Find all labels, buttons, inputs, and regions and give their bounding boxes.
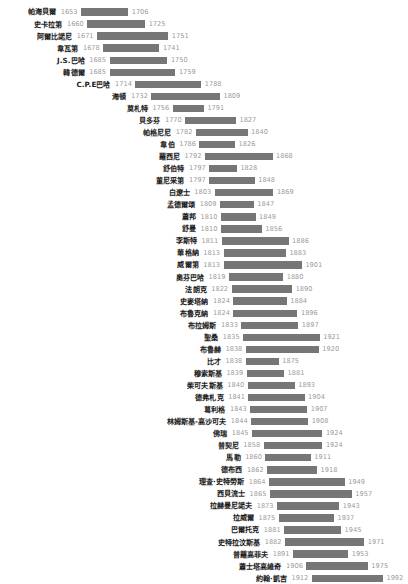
death-year-label: 1840 [251,129,268,136]
birth-year-label: 1862 [247,467,264,474]
lifespan-bar [246,358,279,365]
birth-year-label: 1803 [194,189,211,196]
lifespan-bar-group: 1725 [87,18,165,30]
birth-year-label: 1782 [176,129,193,136]
lifespan-bar [209,165,237,172]
death-year-label: 1943 [343,503,360,510]
death-year-label: 1875 [282,358,299,365]
row-label-group: 孟德爾頌1809 [167,199,220,211]
death-year-label: 1957 [355,491,372,498]
lifespan-bar [252,430,322,437]
lifespan-bar [246,346,319,353]
timeline-row: 布魯克納18241896 [0,307,408,319]
lifespan-bar-group: 1880 [229,271,304,283]
death-year-label: 1921 [323,334,340,341]
timeline-row: 拉威爾18751937 [0,512,408,524]
lifespan-bar-group: 1953 [293,548,369,560]
timeline-row: 比才18381875 [0,355,408,367]
birth-year-label: 1891 [273,551,290,558]
birth-year-label: 1678 [83,45,100,52]
row-label-group: 韓德爾1685 [63,66,109,78]
row-label-group: 西貝流士1865 [217,488,270,500]
lifespan-bar [247,370,284,377]
row-label-group: 羅西尼1792 [159,151,205,163]
death-year-label: 1945 [345,527,362,534]
row-label-group: 理查·史特勞斯1864 [199,476,269,488]
death-year-label: 1901 [305,262,322,269]
timeline-row: 普契尼18581924 [0,440,408,452]
birth-year-label: 1786 [179,141,196,148]
row-label-group: C.P.E巴哈1714 [77,78,136,90]
lifespan-bar-group: 1706 [81,6,148,18]
birth-year-label: 1819 [209,274,226,281]
lifespan-bar [277,502,339,509]
lifespan-bar [233,297,286,304]
composer-name: 穆索斯基 [194,370,222,377]
composer-name: 白遼士 [169,189,190,196]
timeline-row: 奧芬巴哈18191880 [0,271,408,283]
lifespan-bar [229,273,283,280]
timeline-row: 蕭邦18101849 [0,211,408,223]
lifespan-bar [199,141,235,148]
row-label-group: 普羅高菲夫1891 [233,548,293,560]
composer-name: 普契尼 [218,442,239,449]
row-label-group: 蕭士塔高維奇1906 [239,560,306,572]
birth-year-label: 1685 [89,69,106,76]
birth-year-label: 1838 [226,346,243,353]
timeline-row: 柴可夫斯基18401893 [0,379,408,391]
lifespan-bar-group: 1875 [246,355,299,367]
lifespan-bar [269,478,345,485]
lifespan-bar-group: 1868 [205,151,293,163]
lifespan-bar-group: 1937 [279,512,355,524]
lifespan-bar-group: 1849 [221,211,276,223]
row-label-group: 比才1838 [207,355,246,367]
lifespan-bar [243,334,320,341]
row-label-group: 林姆斯基-高沙可夫1844 [167,416,252,428]
birth-year-label: 1864 [249,479,266,486]
lifespan-bar [87,20,145,27]
birth-year-label: 1714 [115,81,132,88]
composer-name: 史特拉汶斯基 [218,539,261,546]
birth-year-label: 1835 [223,334,240,341]
composer-name: 布魯克納 [180,310,208,317]
lifespan-bar-group: 1897 [241,319,318,331]
row-label-group: 海頓1732 [112,90,151,102]
lifespan-bar-group: 1921 [243,331,340,343]
birth-year-label: 1810 [201,226,218,233]
timeline-row: 蕭士塔高維奇19061975 [0,560,408,572]
birth-year-label: 1844 [231,418,248,425]
composer-name: 葛利格 [204,406,225,413]
row-label-group: 帕格尼尼1782 [143,126,196,138]
timeline-row: 李斯特18111886 [0,235,408,247]
lifespan-bar [135,81,201,88]
death-year-label: 1884 [290,298,307,305]
composer-name: 巴爾托克 [231,526,259,533]
timeline-row: 布魯赫18381920 [0,343,408,355]
row-label-group: 葛利格1843 [204,404,250,416]
lifespan-bar-group: 1908 [251,416,328,428]
birth-year-label: 1756 [152,105,169,112]
lifespan-bar-group: 1884 [233,295,307,307]
death-year-label: 1791 [207,105,224,112]
lifespan-bar-group: 1840 [196,126,268,138]
composer-name: 韓德爾 [63,69,84,76]
birth-year-label: 1809 [200,201,217,208]
composer-name: 拉赫曼尼諾夫 [210,502,253,509]
birth-year-label: 1882 [265,539,282,546]
lifespan-bar [248,394,304,401]
timeline-row: 德弗札克18411904 [0,392,408,404]
death-year-label: 1706 [132,9,149,16]
lifespan-bar-group: 1924 [264,440,343,452]
lifespan-bar-group: 1890 [232,283,313,295]
death-year-label: 1827 [239,117,256,124]
timeline-row: 海頓17321809 [0,90,408,102]
lifespan-bar [279,514,334,521]
composer-name: 帕海貝爾 [28,8,56,15]
composer-name: 布拉姆斯 [188,322,216,329]
timeline-row: 舒伯特17971828 [0,163,408,175]
composer-name: 林姆斯基-高沙可夫 [167,418,227,425]
row-label-group: 白遼士1803 [169,187,215,199]
birth-year-label: 1824 [213,298,230,305]
birth-year-label: 1838 [226,358,243,365]
lifespan-bar-group: 1949 [269,476,365,488]
